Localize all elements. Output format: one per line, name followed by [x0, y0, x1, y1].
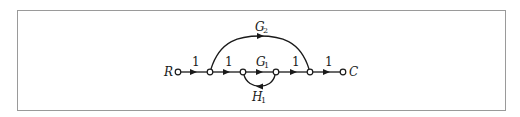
- arrow-icon: [323, 69, 330, 75]
- node-4: [307, 69, 313, 75]
- node-2: [240, 69, 246, 75]
- arrow-icon: [256, 84, 263, 90]
- output-label: C: [349, 65, 358, 79]
- h1-branch: [244, 75, 275, 86]
- arrow-icon: [290, 69, 297, 75]
- input-label: R: [163, 65, 173, 79]
- g2-subscript: 2: [263, 26, 268, 35]
- arrow-icon: [223, 69, 230, 75]
- node-1: [207, 69, 213, 75]
- h1-subscript: 1: [261, 96, 266, 105]
- g1-subscript: 1: [264, 61, 269, 70]
- gain-n3-n4: 1: [292, 55, 300, 69]
- gain-n4-c: 1: [325, 55, 333, 69]
- gain-r-n1: 1: [192, 55, 200, 69]
- arrow-icon: [256, 69, 263, 75]
- node-r: [175, 69, 181, 75]
- arrow-icon: [190, 69, 197, 75]
- gain-n1-n2: 1: [225, 55, 233, 69]
- node-c: [340, 69, 346, 75]
- signal-flow-graph: R C 1 1 1 1 G 1 G 2 H 1: [0, 0, 520, 117]
- node-3: [273, 69, 279, 75]
